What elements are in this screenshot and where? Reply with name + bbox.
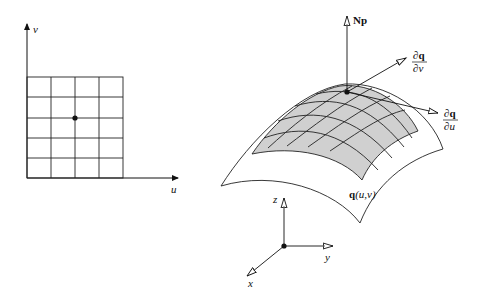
- svg-text:∂u: ∂u: [444, 120, 455, 132]
- uv-point: [72, 115, 77, 120]
- svg-text:∂v: ∂v: [413, 62, 423, 74]
- surface: Np ∂q ∂v ∂q ∂u q(u,v): [221, 14, 458, 223]
- parameter-domain: v u: [27, 23, 178, 195]
- tangent-v-label: ∂q ∂v: [412, 49, 427, 74]
- x-axis-label: x: [247, 277, 253, 289]
- normal-label: Np: [353, 14, 367, 26]
- surface-label: q(u,v): [349, 188, 376, 201]
- uv-grid: [27, 77, 123, 178]
- x-axis: [247, 246, 284, 276]
- v-axis-label: v: [33, 23, 38, 35]
- tangent-v-vector: [347, 58, 406, 92]
- world-axes: z y x: [247, 193, 333, 289]
- world-origin: [281, 243, 286, 248]
- y-axis-label: y: [324, 251, 330, 263]
- z-axis-label: z: [272, 193, 278, 205]
- parametric-surface-diagram: v u Np ∂q ∂v: [0, 0, 479, 296]
- svg-text:∂q: ∂q: [444, 107, 456, 119]
- tangent-u-label: ∂q ∂u: [443, 107, 458, 132]
- svg-text:∂q: ∂q: [413, 49, 425, 61]
- u-axis-label: u: [171, 183, 177, 195]
